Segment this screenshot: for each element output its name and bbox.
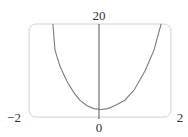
x-tick-left: −2 [7,110,21,125]
function-plot: 20 −2 0 2 [0,0,188,137]
plot-frame [29,24,171,117]
function-curve [53,24,161,110]
x-tick-right: 2 [177,110,184,125]
y-tick-top: 20 [93,8,106,23]
x-tick-center: 0 [96,120,103,135]
